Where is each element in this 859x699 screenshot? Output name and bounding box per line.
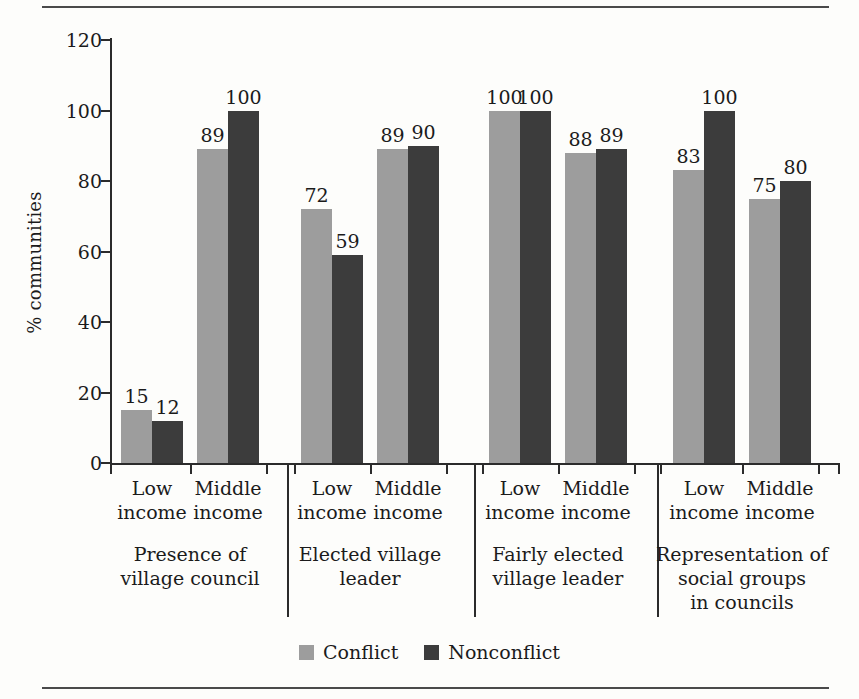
bar-value-label: 12 [155, 396, 179, 418]
x-axis-tick [818, 463, 820, 474]
bar-conflict-4: 100 [489, 111, 520, 464]
bar-value-label: 89 [200, 124, 224, 146]
y-axis-tick [101, 251, 110, 253]
x-category-label: Middleincome [536, 477, 656, 525]
x-category-label: Middleincome [720, 477, 840, 525]
bar-value-label: 89 [380, 124, 404, 146]
bar-nonconflict-6: 100 [704, 111, 735, 464]
y-axis-tick [101, 321, 110, 323]
bar-nonconflict-3: 90 [408, 146, 439, 463]
bar-value-label: 90 [411, 121, 435, 143]
bar-nonconflict-7: 80 [780, 181, 811, 463]
bar-conflict-3: 89 [377, 149, 408, 463]
bar-value-label: 59 [335, 230, 359, 252]
legend-item[interactable]: Nonconflict [424, 641, 560, 663]
bar-value-label: 75 [752, 174, 776, 196]
y-axis-tick-label: 0 [90, 452, 102, 474]
legend-swatch-icon [424, 645, 439, 660]
bar-value-label: 100 [701, 86, 737, 108]
x-axis-tick [446, 463, 448, 474]
x-axis-tick [110, 463, 112, 474]
bar-value-label: 83 [676, 145, 700, 167]
y-axis-tick [101, 110, 110, 112]
legend-item[interactable]: Conflict [299, 641, 398, 663]
bar-nonconflict-0: 12 [152, 421, 183, 463]
x-axis-tick [838, 463, 840, 474]
x-group-title: Presence ofvillage council [95, 543, 285, 591]
plot-area: 158972891008883751210059901008910080 [110, 40, 838, 463]
y-axis-tick-label: 100 [66, 100, 102, 122]
bar-conflict-7: 75 [749, 199, 780, 463]
x-category-label: Middleincome [348, 477, 468, 525]
bar-nonconflict-4: 100 [520, 111, 551, 464]
bar-conflict-1: 89 [197, 149, 228, 463]
bar-value-label: 88 [568, 128, 592, 150]
legend-label: Conflict [323, 641, 398, 663]
x-axis-tick [266, 463, 268, 474]
bar-value-label: 100 [225, 86, 261, 108]
x-axis-tick [482, 463, 484, 474]
x-group-title: Representation ofsocial groupsin council… [647, 543, 837, 614]
bar-value-label: 15 [124, 385, 148, 407]
bar-conflict-6: 83 [673, 170, 704, 463]
y-axis-tick-label: 60 [78, 241, 102, 263]
bar-nonconflict-5: 89 [596, 149, 627, 463]
bar-chart-figure: % communities 020406080100120 1589728910… [0, 0, 859, 699]
y-axis-tick [101, 462, 110, 464]
x-axis-tick [742, 463, 744, 474]
y-axis-tick [101, 39, 110, 41]
y-axis-tick-label: 20 [78, 382, 102, 404]
bar-nonconflict-1: 100 [228, 111, 259, 464]
bar-value-label: 89 [599, 124, 623, 146]
legend-swatch-icon [299, 645, 314, 660]
x-axis-tick [294, 463, 296, 474]
x-axis-tick [558, 463, 560, 474]
bar-value-label: 100 [517, 86, 553, 108]
y-axis-tick-label: 80 [78, 170, 102, 192]
y-axis-tick-label: 120 [66, 29, 102, 51]
chart-legend: ConflictNonconflict [0, 641, 859, 663]
x-axis-tick [370, 463, 372, 474]
x-axis-tick [660, 463, 662, 474]
bar-value-label: 72 [304, 184, 328, 206]
y-axis-title: % communities [24, 183, 45, 343]
x-category-label: Middleincome [168, 477, 288, 525]
x-axis-tick [190, 463, 192, 474]
x-group-title: Elected villageleader [275, 543, 465, 591]
y-axis-tick-label: 40 [78, 311, 102, 333]
bar-value-label: 80 [783, 156, 807, 178]
bar-conflict-5: 88 [565, 153, 596, 463]
y-axis-tick [101, 180, 110, 182]
x-axis-tick [634, 463, 636, 474]
x-group-title: Fairly electedvillage leader [463, 543, 653, 591]
y-axis-tick [101, 392, 110, 394]
bar-nonconflict-2: 59 [332, 255, 363, 463]
bar-conflict-2: 72 [301, 209, 332, 463]
bar-conflict-0: 15 [121, 410, 152, 463]
legend-label: Nonconflict [448, 641, 560, 663]
